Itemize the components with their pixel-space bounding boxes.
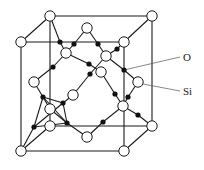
label-silicon: Si [183,85,192,97]
oxygen-atom [86,61,91,66]
silicon-atom [147,121,157,131]
bond [21,126,50,151]
oxygen-atom [64,120,69,125]
labels: O Si [183,51,192,97]
oxygen-atom [121,67,126,72]
silicon-atom [45,11,55,21]
silicon-atom [119,146,129,156]
silicon-atom [61,48,71,58]
silicon-atom [68,90,78,100]
oxygen-atom [125,94,130,99]
oxygen-atom [95,41,100,46]
oxygen-atom [87,71,92,76]
silicon-atom [16,37,26,47]
bonds [21,16,152,151]
oxygen-atom [57,39,62,44]
silicon-atom [101,51,111,61]
silicon-atoms [16,11,157,156]
label-pointer-line [143,84,180,91]
bond [21,16,50,42]
sio2-crystal-structure-diagram: O Si [0,0,204,170]
oxygen-atom [60,100,65,105]
silicon-atom [119,37,129,47]
oxygen-atom [71,41,76,46]
bond [34,97,43,127]
silicon-atom [82,23,92,33]
oxygen-atom [50,64,55,69]
oxygen-atom [31,124,36,129]
silicon-atom [45,104,55,114]
oxygen-atom [114,46,119,51]
silicon-atom [45,121,55,131]
oxygen-atom [135,112,140,117]
silicon-atom [96,67,106,77]
silicon-atom [82,132,92,142]
silicon-atom [16,146,26,156]
bond [124,16,152,42]
silicon-atom [29,77,39,87]
silicon-atom [118,101,128,111]
oxygen-atom [100,119,105,124]
silicon-atom [147,11,157,21]
oxygen-atom [40,94,45,99]
silicon-atom [133,77,143,87]
unit-cell-cube [21,16,152,151]
oxygen-atom [112,91,117,96]
label-oxygen: O [183,51,191,63]
